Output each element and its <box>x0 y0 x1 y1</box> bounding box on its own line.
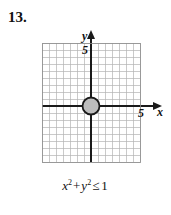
shaded-disk-region <box>83 98 100 115</box>
x-axis-label: x <box>157 106 163 118</box>
graph-svg <box>0 0 171 175</box>
equation-relation-operator: ≤ <box>91 178 100 193</box>
figure-page: 13. <box>0 0 171 215</box>
equation-right-side: 1 <box>100 178 109 193</box>
x-axis-tick-label-5: 5 <box>138 107 144 119</box>
equation-plus-operator: + <box>72 178 81 193</box>
inequality-caption: x2+y2≤1 <box>0 178 171 194</box>
y-axis-tick-label-5: 5 <box>82 44 88 56</box>
coordinate-graph: y x 5 5 <box>0 0 171 175</box>
y-axis-label: y <box>82 30 87 42</box>
y-axis-arrowhead <box>87 30 95 39</box>
